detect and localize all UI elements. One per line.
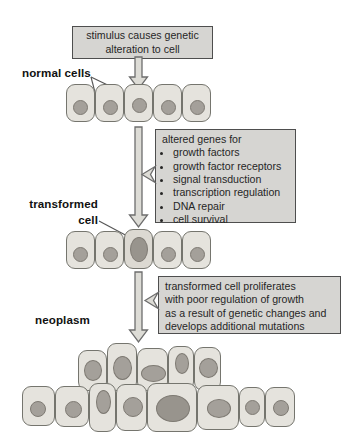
nucleus xyxy=(245,400,260,415)
altered-genes-item: cell survival xyxy=(173,213,289,226)
normal-cell xyxy=(124,84,153,122)
neoplasm-cell xyxy=(239,387,265,427)
nucleus xyxy=(273,400,289,416)
nucleus xyxy=(190,247,205,262)
altered-genes-list: growth factors growth factor receptors s… xyxy=(162,146,289,226)
proliferation-line: transformed cell proliferates xyxy=(165,280,334,293)
altered-genes-item: growth factor receptors xyxy=(173,160,289,173)
transformed-cell-label: transformed cell xyxy=(20,196,98,227)
neoplasm-cell xyxy=(116,384,147,431)
nucleus xyxy=(175,353,189,374)
altered-genes-item: growth factors xyxy=(173,146,289,159)
altered-genes-item: signal transduction xyxy=(173,173,289,186)
neoplasm-cell-large xyxy=(147,383,197,432)
neoplasm-cell xyxy=(22,386,55,426)
normal-cell xyxy=(182,84,211,122)
nucleus xyxy=(207,399,231,418)
nucleus xyxy=(199,358,218,378)
nucleus xyxy=(141,365,166,382)
nucleus xyxy=(103,247,118,262)
enlarged-nucleus xyxy=(156,395,190,422)
nucleus xyxy=(73,100,88,115)
altered-genes-heading: altered genes for xyxy=(162,133,289,146)
nucleus xyxy=(161,247,176,262)
transformed-row-cell xyxy=(153,231,182,269)
enlarged-nucleus xyxy=(130,237,148,262)
nucleus xyxy=(65,401,82,418)
altered-genes-item: DNA repair xyxy=(173,200,289,213)
nucleus xyxy=(103,100,118,115)
nucleus xyxy=(96,390,111,414)
nucleus xyxy=(123,397,143,417)
proliferation-line: with poor regulation of growth xyxy=(165,293,334,306)
left-arrow-icon xyxy=(142,166,156,183)
transformed-row-cell xyxy=(95,231,124,269)
left-arrow-icon xyxy=(145,292,159,309)
nucleus xyxy=(132,98,147,113)
transformed-row-cell xyxy=(182,231,211,269)
normal-cell xyxy=(66,84,95,122)
normal-cell xyxy=(95,84,124,122)
nucleus xyxy=(113,356,132,380)
proliferation-line: as a result of genetic changes and xyxy=(165,307,334,320)
neoplasm-cell xyxy=(89,383,116,432)
transformed-row-cell xyxy=(66,231,95,269)
neoplasm-cell xyxy=(197,385,239,430)
altered-genes-item: transcription regulation xyxy=(173,186,289,199)
proliferation-box: transformed cell proliferates with poor … xyxy=(158,276,341,334)
normal-cell xyxy=(153,84,182,122)
nucleus xyxy=(190,100,205,115)
neoplasm-label: neoplasm xyxy=(35,313,90,326)
cancer-development-diagram: stimulus causes genetic alteration to ce… xyxy=(0,0,352,446)
nucleus xyxy=(30,401,46,417)
nucleus xyxy=(161,100,176,115)
altered-genes-box: altered genes for growth factors growth … xyxy=(155,129,296,223)
neoplasm-cell xyxy=(55,386,89,427)
neoplasm-cell xyxy=(265,387,295,427)
proliferation-line: develops additional mutations xyxy=(165,320,334,333)
transformed-cell xyxy=(124,229,153,269)
nucleus xyxy=(84,360,102,381)
nucleus xyxy=(73,247,88,262)
